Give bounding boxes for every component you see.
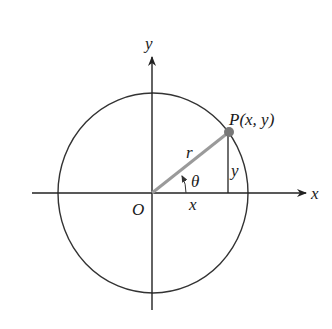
angle-arc-icon [182,176,186,193]
origin-label: O [132,200,144,219]
y-leg-label: y [229,161,239,180]
x-leg-label: x [188,195,197,214]
radius-label: r [186,143,193,162]
x-axis-label: x [310,184,319,203]
y-axis-label: y [143,34,153,53]
point-label: P(x, y) [228,110,275,129]
polar-diagram: y x O P(x, y) r θ x y [0,0,332,329]
angle-label: θ [191,172,199,191]
